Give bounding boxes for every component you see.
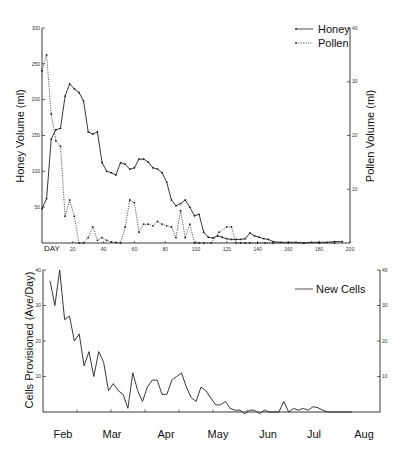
bottom-left-tick-label: 20	[35, 338, 41, 344]
month-label-jul: Jul	[307, 428, 321, 440]
bottom-right-tick-label: 30	[382, 302, 388, 308]
y-axis-title-honey: Honey Volume (ml)	[14, 89, 26, 183]
y-axis-title-cells: Cells Provisioned (Ave/Day)	[23, 272, 35, 409]
y-axis-title-pollen: Pollen Volume (ml)	[364, 90, 376, 182]
bottom-right-tick-label: 10	[382, 373, 388, 379]
legend-pollen-label: Pollen	[318, 37, 349, 49]
month-label-mar: Mar	[103, 428, 122, 440]
pollen-series-line	[42, 55, 335, 243]
bottom-left-tick-label: 30	[35, 302, 41, 308]
pollen-series-points	[41, 54, 335, 244]
legend-honey-label: Honey	[318, 23, 350, 35]
honey-series-points	[41, 83, 343, 244]
top-x-tick-label: 200	[346, 246, 355, 252]
top-chart: 50100150200250300 10203040 2040608010012…	[14, 23, 376, 253]
x-axis-title-day: DAY	[44, 244, 61, 253]
top-x-tick-label: 140	[253, 246, 262, 252]
figure: 50100150200250300 10203040 2040608010012…	[0, 0, 413, 455]
top-x-tick-label: 100	[192, 246, 201, 252]
top-x-tick-label: 180	[315, 246, 324, 252]
month-label-apr: Apr	[157, 428, 174, 440]
top-x-tick-label: 60	[132, 246, 138, 252]
top-legend: Honey Pollen	[295, 23, 350, 49]
top-x-tick-label: 120	[223, 246, 232, 252]
top-x-tick-label: 20	[70, 246, 76, 252]
bottom-left-tick-label: 40	[35, 267, 41, 273]
top-left-tick-label: 300	[32, 25, 41, 31]
top-x-tick-label: 80	[162, 246, 168, 252]
month-label-jun: Jun	[259, 428, 277, 440]
month-label-may: May	[208, 428, 229, 440]
top-left-tick-label: 50	[34, 204, 40, 210]
top-right-ticks: 10203040	[347, 25, 358, 192]
top-left-tick-label: 100	[32, 168, 41, 174]
top-right-tick-label: 20	[352, 132, 358, 138]
top-right-tick-label: 30	[352, 78, 358, 84]
new-cells-series-line	[50, 270, 352, 414]
top-left-tick-label: 250	[32, 61, 41, 67]
legend-new-cells-label: New Cells	[316, 283, 366, 295]
bottom-right-tick-label: 20	[382, 338, 388, 344]
top-left-tick-label: 200	[32, 96, 41, 102]
top-left-tick-label: 150	[32, 132, 41, 138]
bottom-left-tick-label: 10	[35, 373, 41, 379]
top-right-tick-label: 10	[352, 186, 358, 192]
bottom-right-ticks: 10203040	[377, 267, 388, 380]
month-label-aug: Aug	[354, 428, 374, 440]
top-x-tick-label: 160	[284, 246, 293, 252]
bottom-month-ticks: FebMarAprMayJunJulAug	[54, 410, 374, 441]
top-left-ticks: 50100150200250300	[32, 25, 45, 210]
bottom-right-tick-label: 40	[382, 267, 388, 273]
bottom-left-ticks: 10203040	[35, 267, 46, 380]
bottom-chart: 10203040 10203040 FebMarAprMayJunJulAug …	[23, 267, 388, 440]
month-label-feb: Feb	[54, 428, 73, 440]
top-right-tick-label: 40	[352, 25, 358, 31]
top-x-tick-label: 40	[101, 246, 107, 252]
honey-series-line	[42, 84, 342, 243]
bottom-legend: New Cells	[295, 283, 366, 295]
